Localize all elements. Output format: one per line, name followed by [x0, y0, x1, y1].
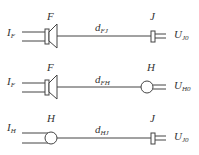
distance-label: dFJ: [95, 21, 109, 35]
speaker-icon: [45, 75, 57, 99]
row-1: IF F dFJ J UJ0: [6, 10, 189, 48]
sphere-icon: [141, 81, 166, 93]
jack-icon: [151, 133, 166, 144]
jack-icon: [151, 31, 166, 42]
right-element-label: H: [146, 61, 156, 73]
transfer-diagram: IF F dFJ J UJ0 IF F dFH H: [0, 0, 199, 155]
input-label: IF: [6, 26, 16, 40]
output-label: UJ0: [174, 130, 189, 144]
output-label: UJ0: [174, 28, 189, 42]
right-element-label: J: [150, 10, 156, 22]
distance-label: dHJ: [95, 123, 110, 137]
input-label: IH: [6, 121, 17, 135]
distance-label: dFH: [95, 73, 111, 87]
speaker-icon: [45, 24, 57, 48]
right-element-label: J: [150, 112, 156, 124]
row-2: IF F dFH H UH0: [6, 61, 191, 99]
output-label: UH0: [174, 79, 191, 93]
left-element-label: F: [46, 10, 54, 22]
input-label: IF: [6, 75, 16, 89]
row-3: IH H dHJ J UJ0: [6, 112, 189, 144]
left-element-label: F: [46, 61, 54, 73]
sphere-icon: [45, 132, 57, 144]
left-element-label: H: [46, 112, 56, 124]
